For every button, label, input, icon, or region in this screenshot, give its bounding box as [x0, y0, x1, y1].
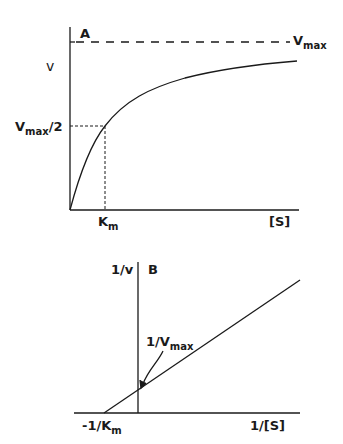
y-intercept-sub: max — [170, 341, 194, 352]
y-intercept-label: 1/Vmax — [146, 335, 193, 348]
y-intercept-main: 1/V — [146, 334, 170, 349]
vmax-label-main: V — [293, 33, 303, 48]
panel-a-x-axis-label: [S] — [269, 215, 290, 228]
x-intercept-label: -1/Km — [82, 419, 122, 432]
panel-b-label: B — [148, 263, 158, 276]
panel-b-x-axis-label: 1/[S] — [250, 419, 285, 432]
half-vmax-suffix: /2 — [49, 119, 63, 134]
lineweaver-burk-line — [104, 280, 300, 413]
half-vmax-sub: max — [25, 126, 49, 137]
panel-a-label: A — [80, 27, 90, 40]
michaelis-menten-curve — [70, 61, 297, 210]
panel-b-y-axis-label: 1/v — [111, 263, 133, 276]
vmax-label-sub: max — [303, 40, 327, 51]
half-vmax-main: V — [15, 119, 25, 134]
x-intercept-main: -1/K — [82, 418, 111, 433]
km-label: Km — [98, 215, 119, 228]
km-sub: m — [108, 221, 118, 232]
half-vmax-label: Vmax/2 — [15, 120, 62, 133]
panel-a-y-axis-label: v — [46, 59, 54, 73]
km-main: K — [98, 214, 108, 229]
x-intercept-sub: m — [111, 425, 121, 436]
vmax-label: Vmax — [293, 34, 327, 47]
arrow-head-icon — [140, 380, 146, 388]
